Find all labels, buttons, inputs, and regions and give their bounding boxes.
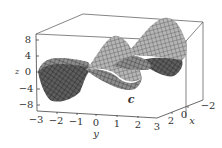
y-tick-label: −3: [29, 115, 44, 125]
z-tick-label: 0: [25, 67, 31, 77]
x-tick-label: 2: [168, 116, 174, 126]
z-axis-title: z: [15, 67, 19, 77]
x-axis-title: x: [189, 116, 195, 126]
y-tick-label: 2: [135, 120, 141, 130]
z-tick-label: 4: [25, 51, 31, 61]
z-tick-label: −8: [19, 100, 34, 110]
x-tick-label: 0: [181, 110, 187, 120]
z-tick-label: −4: [19, 84, 34, 94]
surface-mesh: [38, 18, 187, 102]
z-tick-label: 8: [25, 35, 31, 45]
y-tick-label: 0: [93, 118, 99, 128]
y-tick-label: 1: [114, 119, 120, 129]
y-tick-label: −1: [69, 117, 84, 127]
panel-label: c: [128, 95, 135, 105]
y-tick-label: 3: [154, 122, 160, 132]
surface-plot-figure: 8 4 0 −4 −8 z −3 −2 −1 0 1 2 3 y 2 0 −2 …: [0, 0, 222, 148]
y-axis-title: y: [93, 129, 99, 139]
x-tick-label: −2: [201, 101, 216, 111]
y-tick-label: −2: [49, 116, 64, 126]
